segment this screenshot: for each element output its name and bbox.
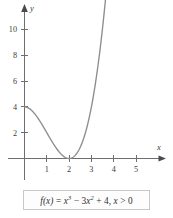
x-tick-label-5: 5 [134, 165, 138, 174]
x-tick-label-4: 4 [112, 165, 116, 174]
formula-text: f(x) = x3 − 3x2 + 4, x > 0 [40, 194, 133, 206]
y-axis-label: y [29, 3, 34, 13]
y-tick-label-4: 4 [13, 103, 17, 112]
y-tick-label-2: 2 [13, 129, 17, 138]
figure-container: 1 2 3 4 5 2 4 6 8 10 y x f(x) = x3 − 3x2… [0, 0, 173, 218]
y-tick-label-6: 6 [13, 77, 17, 86]
plot-area: 1 2 3 4 5 2 4 6 8 10 y x [0, 0, 173, 182]
formula-eq: = [54, 196, 64, 206]
x-axis-label: x [156, 142, 161, 152]
formula-caption-box: f(x) = x3 − 3x2 + 4, x > 0 [23, 190, 150, 210]
function-curve [25, 0, 106, 158]
y-axis-arrow-icon [21, 4, 28, 12]
x-tick-label-2: 2 [67, 165, 71, 174]
formula-arg: (x) [43, 196, 54, 206]
formula-plus: + 4, [94, 196, 114, 206]
y-tick-label-8: 8 [13, 51, 17, 60]
formula-cond: > 0 [118, 196, 133, 206]
y-tick-label-10: 10 [9, 25, 17, 34]
x-axis-arrow-icon [159, 155, 167, 161]
formula-minus: − 3 [71, 196, 86, 206]
x-tick-label-1: 1 [45, 165, 49, 174]
x-tick-label-3: 3 [89, 165, 93, 174]
